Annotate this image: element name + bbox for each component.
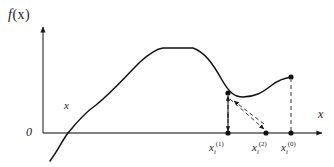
point-label-x0-sub: i [286, 148, 288, 155]
x-axis-label: x [318, 108, 323, 120]
figure-canvas: f(x) 0 x x xi(1) xi(2) xi(0) [0, 0, 334, 167]
y-axis-label: f(x) [8, 8, 30, 22]
point-label-x1-sub: i [214, 148, 216, 155]
marker-x2-axis [263, 130, 268, 135]
marker-x0-axis [288, 130, 293, 135]
dashed-arrow-x2-to-x1 [234, 101, 264, 124]
point-label-x0-sup: (0) [288, 140, 296, 147]
point-label-x2: xi(2) [252, 141, 267, 156]
point-label-x1-sup: (1) [216, 140, 224, 147]
marker-x1-axis [225, 130, 230, 135]
dashed-arrow-x1-to-x2 [230, 99, 264, 129]
marker-x1-curve [225, 90, 230, 95]
y-axis-label-arg: (x) [12, 7, 30, 22]
point-label-x0: xi(0) [281, 141, 296, 156]
point-label-x1: xi(1) [209, 141, 224, 156]
point-label-x2-sub: i [257, 148, 259, 155]
interior-x-label: x [64, 100, 69, 111]
point-label-x2-sup: (2) [259, 140, 267, 147]
origin-label: 0 [26, 126, 32, 138]
marker-x0-curve [288, 74, 293, 79]
